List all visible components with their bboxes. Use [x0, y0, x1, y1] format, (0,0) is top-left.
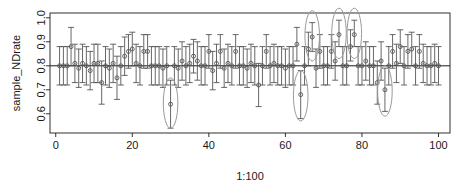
data-point-center	[82, 63, 83, 64]
data-point-center	[74, 63, 75, 64]
data-point-center	[354, 34, 355, 35]
x-axis-tick-label: 40	[203, 139, 215, 151]
data-point-center	[105, 65, 106, 66]
x-axis-title: 1:100	[236, 170, 264, 182]
data-point-center	[293, 65, 294, 66]
data-point-center	[227, 63, 228, 64]
data-point-center	[67, 65, 68, 66]
data-point-center	[296, 44, 297, 45]
data-point-center	[434, 63, 435, 64]
data-point-center	[250, 63, 251, 64]
x-axis-tick-label: 0	[53, 139, 59, 151]
x-axis-tick-label: 60	[279, 139, 291, 151]
data-point-center	[381, 61, 382, 62]
data-point-center	[170, 104, 171, 105]
data-point-center	[258, 85, 259, 86]
data-point-center	[373, 65, 374, 66]
data-point-center	[415, 65, 416, 66]
y-axis-tick-label: 0.6	[35, 106, 47, 121]
data-point-center	[277, 65, 278, 66]
data-point-center	[220, 51, 221, 52]
y-axis-tick-label: 0.9	[35, 34, 47, 49]
y-axis-tick-label: 1.0	[35, 10, 47, 25]
data-point-center	[78, 68, 79, 69]
data-point-center	[101, 82, 102, 83]
data-point-center	[185, 65, 186, 66]
data-point-center	[116, 77, 117, 78]
data-point-center	[239, 65, 240, 66]
data-point-center	[262, 65, 263, 66]
data-point-center	[182, 61, 183, 62]
data-point-center	[113, 63, 114, 64]
data-point-center	[174, 65, 175, 66]
data-point-center	[97, 63, 98, 64]
data-point-center	[411, 49, 412, 50]
data-point-center	[128, 51, 129, 52]
data-point-center	[312, 37, 313, 38]
data-point-center	[361, 65, 362, 66]
data-point-center	[247, 68, 248, 69]
data-point-center	[166, 65, 167, 66]
data-point-center	[94, 63, 95, 64]
data-point-center	[346, 65, 347, 66]
data-point-center	[327, 65, 328, 66]
data-point-center	[369, 65, 370, 66]
data-point-center	[147, 51, 148, 52]
data-point-center	[335, 61, 336, 62]
data-point-center	[243, 65, 244, 66]
data-point-center	[266, 51, 267, 52]
data-point-center	[120, 65, 121, 66]
data-point-center	[124, 56, 125, 57]
data-point-center	[388, 65, 389, 66]
data-point-center	[155, 65, 156, 66]
data-point-center	[273, 63, 274, 64]
data-point-center	[270, 65, 271, 66]
data-point-center	[193, 56, 194, 57]
data-point-center	[59, 65, 60, 66]
data-point-center	[136, 63, 137, 64]
data-point-center	[430, 65, 431, 66]
y-axis-tick-label: 0.8	[35, 58, 47, 73]
x-axis-tick-label: 20	[126, 139, 138, 151]
data-point-center	[86, 65, 87, 66]
data-point-center	[384, 89, 385, 90]
data-point-center	[109, 68, 110, 69]
data-point-center	[323, 65, 324, 66]
data-point-center	[281, 65, 282, 66]
data-point-center	[396, 63, 397, 64]
data-point-center	[419, 51, 420, 52]
data-point-center	[63, 65, 64, 66]
data-point-center	[216, 63, 217, 64]
data-point-center	[212, 70, 213, 71]
data-point-center	[231, 65, 232, 66]
data-point-center	[392, 51, 393, 52]
data-point-center	[358, 65, 359, 66]
data-point-center	[400, 46, 401, 47]
data-point-center	[308, 49, 309, 50]
data-point-center	[427, 65, 428, 66]
data-point-center	[319, 51, 320, 52]
data-point-center	[178, 68, 179, 69]
data-point-center	[197, 61, 198, 62]
data-point-center	[404, 65, 405, 66]
data-point-center	[132, 49, 133, 50]
x-axis-tick-label: 80	[356, 139, 368, 151]
data-point-center	[423, 63, 424, 64]
data-point-center	[300, 94, 301, 95]
data-point-center	[438, 65, 439, 66]
data-point-center	[201, 65, 202, 66]
data-point-center	[189, 63, 190, 64]
data-point-center	[338, 34, 339, 35]
data-point-center	[235, 51, 236, 52]
data-point-center	[162, 68, 163, 69]
data-point-center	[331, 51, 332, 52]
data-point-center	[304, 65, 305, 66]
data-point-center	[289, 65, 290, 66]
data-point-center	[342, 65, 343, 66]
confidence-interval-plot: 0.60.70.80.91.00204060801001:100sample_N…	[0, 0, 467, 187]
data-point-center	[205, 65, 206, 66]
data-point-center	[285, 68, 286, 69]
chart-canvas: 0.60.70.80.91.00204060801001:100sample_N…	[0, 0, 467, 187]
data-point-center	[350, 46, 351, 47]
data-point-center	[208, 51, 209, 52]
